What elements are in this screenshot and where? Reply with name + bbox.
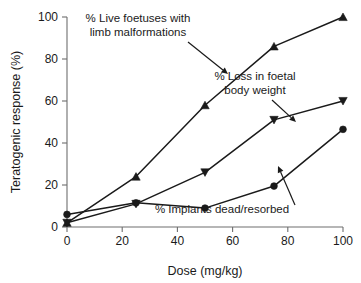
data-point-marker <box>133 199 140 206</box>
annotation-implants-dead: % Implants dead/resorbed <box>155 166 295 215</box>
annotations-group: % Live foetuses withlimb malformations% … <box>86 12 296 215</box>
x-tick-label: 80 <box>281 234 295 248</box>
x-tick-label: 20 <box>116 234 130 248</box>
data-point-marker <box>339 13 347 21</box>
annotation-live-foetuses-label: % Live foetuses withlimb malformations <box>86 12 191 38</box>
annotation-loss-body-weight-leader-line <box>272 100 291 118</box>
data-point-marker <box>270 42 278 50</box>
annotation-loss-body-weight-label: % Loss in foetalbody weight <box>214 70 295 96</box>
chart-canvas: 020406080100020406080100 % Live foetuses… <box>0 0 361 283</box>
x-tick-label: 0 <box>64 234 71 248</box>
series-line <box>67 17 343 223</box>
y-tick-label: 0 <box>51 220 58 234</box>
data-point-marker <box>340 126 347 133</box>
y-tick-label: 20 <box>45 178 59 192</box>
annotation-loss-body-weight: % Loss in foetalbody weight <box>214 70 296 122</box>
x-tick-label: 100 <box>333 234 353 248</box>
data-point-marker <box>201 169 209 177</box>
x-tick-label: 60 <box>226 234 240 248</box>
series-1 <box>63 13 347 226</box>
y-tick-label: 100 <box>38 10 58 24</box>
y-axis-title: Teratogenic response (%) <box>9 51 23 193</box>
annotation-live-foetuses: % Live foetuses withlimb malformations <box>86 12 228 74</box>
data-point-marker <box>271 183 278 190</box>
x-axis-title: Dose (mg/kg) <box>167 264 242 278</box>
y-tick-label: 80 <box>45 52 59 66</box>
teratogenic-response-chart: 020406080100020406080100 % Live foetuses… <box>0 0 361 283</box>
annotation-implants-dead-label: % Implants dead/resorbed <box>155 203 289 215</box>
y-tick-label: 40 <box>45 136 59 150</box>
annotation-live-foetuses-leader-line <box>188 42 223 70</box>
x-tick-label: 40 <box>171 234 185 248</box>
data-point-marker <box>64 211 71 218</box>
annotation-implants-dead-leader-line <box>281 172 295 205</box>
series-group <box>63 13 347 227</box>
y-tick-label: 60 <box>45 94 59 108</box>
